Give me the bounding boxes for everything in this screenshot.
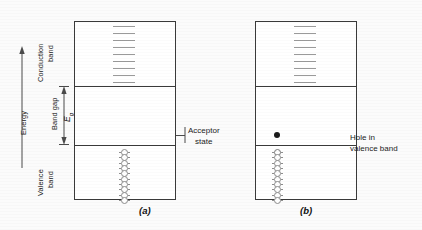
valence-band-label-line2: band xyxy=(46,171,55,188)
energy-axis-label: Energy xyxy=(19,111,28,135)
acceptor-state-label-line1: Acceptor xyxy=(188,126,220,135)
conduction-level xyxy=(294,54,316,55)
acceptor-state-label-line2: state xyxy=(195,137,212,146)
conduction-level xyxy=(294,82,316,83)
conduction-level xyxy=(294,75,316,76)
conduction-level xyxy=(113,68,135,69)
conduction-level xyxy=(294,68,316,69)
conduction-level xyxy=(294,61,316,62)
conduction-level xyxy=(294,33,316,34)
conduction-level xyxy=(113,75,135,76)
conduction-level xyxy=(294,40,316,41)
conduction-level xyxy=(113,40,135,41)
band-gap-symbol-label: Eg xyxy=(62,113,74,122)
conduction-level xyxy=(294,47,316,48)
conduction-level xyxy=(113,82,135,83)
conduction-level xyxy=(113,26,135,27)
hole-label-line1: Hole in xyxy=(350,133,375,142)
conduction-level xyxy=(113,33,135,34)
valence-electron-state xyxy=(274,197,281,204)
band-structure-figure: Energy Conduction band Band gap Eg Valen… xyxy=(0,0,422,230)
panel-a-conduction-levels xyxy=(113,26,143,82)
conduction-level xyxy=(113,61,135,62)
panel-b-conduction-levels xyxy=(294,26,324,82)
conduction-level xyxy=(113,47,135,48)
valence-electron-state xyxy=(121,197,128,204)
panel-b-conduction-band-edge xyxy=(255,86,357,87)
conduction-band-label-line2: band xyxy=(46,45,55,62)
band-gap-label: Band gap xyxy=(50,98,59,130)
band-gap-symbol: E xyxy=(62,116,72,122)
hole-label-line2: valence band xyxy=(350,144,398,153)
panel-b-caption: (b) xyxy=(300,205,312,216)
panel-b-acceptor-electron-dot xyxy=(274,132,280,138)
panel-b-valence-band-edge xyxy=(255,145,357,146)
panel-b-valence-states xyxy=(274,149,286,197)
panel-a-caption: (a) xyxy=(139,205,151,216)
energy-axis-arrow xyxy=(19,46,24,168)
panel-a-valence-states xyxy=(121,149,133,197)
conduction-level xyxy=(113,54,135,55)
valence-band-label-line1: Valence xyxy=(36,169,45,196)
band-gap-subscript: g xyxy=(67,113,74,116)
panel-a-valence-band-edge xyxy=(74,145,176,146)
panel-a-conduction-band-edge xyxy=(74,86,176,87)
conduction-band-label-line1: Conduction xyxy=(36,44,45,82)
conduction-level xyxy=(294,26,316,27)
